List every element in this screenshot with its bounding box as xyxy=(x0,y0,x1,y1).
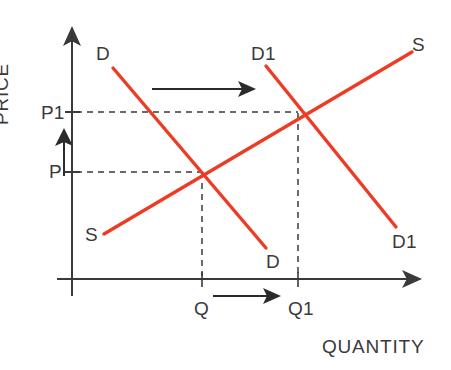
demand-curve-top-label: D xyxy=(96,44,110,63)
price-low-label: P xyxy=(49,162,62,181)
y-axis-title: PRICE xyxy=(0,63,11,125)
demand-curve-d1 xyxy=(266,66,396,227)
price-high-label: P1 xyxy=(41,103,65,122)
demand-shift-curve-bottom-label: D1 xyxy=(392,232,417,251)
quantity-low-label: Q xyxy=(194,299,209,318)
demand-curve-d xyxy=(113,68,266,248)
quantity-high-label: Q1 xyxy=(288,299,314,318)
supply-curve-bottom-label: S xyxy=(85,225,98,244)
supply-curve-top-label: S xyxy=(412,35,425,54)
demand-shift-curve-top-label: D1 xyxy=(251,44,276,63)
supply-demand-chart: PRICE QUANTITY P1 P Q Q1 D D D1 D1 S S xyxy=(0,0,451,370)
chart-canvas xyxy=(0,0,451,370)
x-axis-title: QUANTITY xyxy=(322,337,424,356)
demand-curve-bottom-label: D xyxy=(266,252,280,271)
supply-curve-s xyxy=(104,52,412,234)
